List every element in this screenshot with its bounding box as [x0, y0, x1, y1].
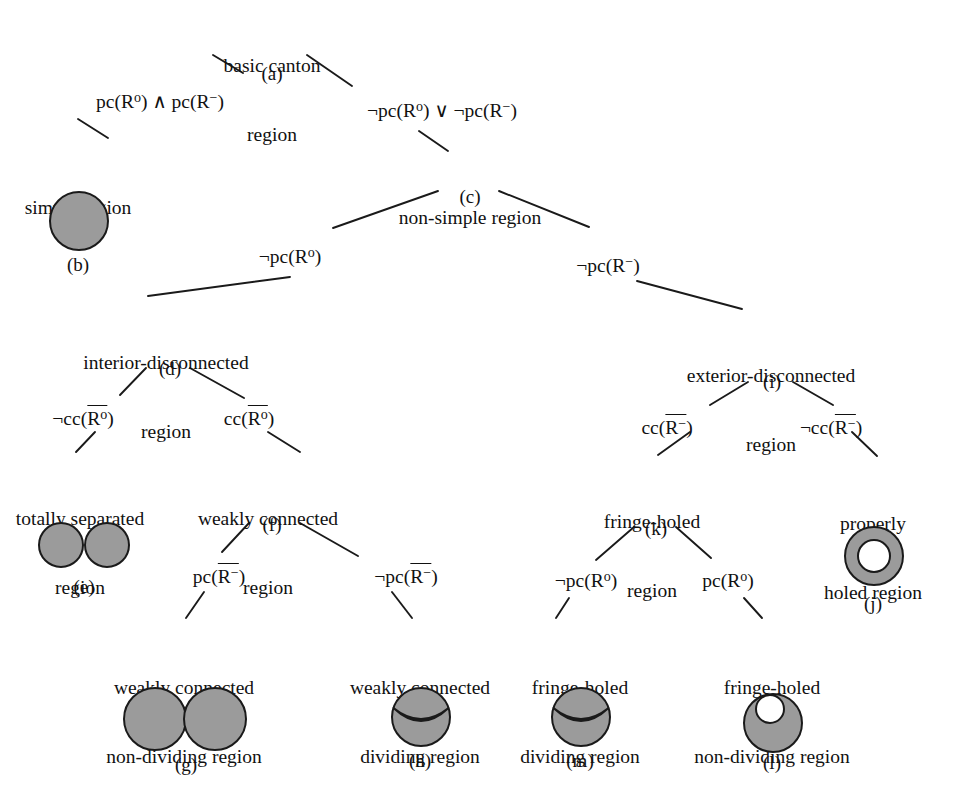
edge-c-lower	[419, 131, 448, 151]
node-f-weakly-connected-region: weakly connected region	[198, 461, 338, 645]
edge-b-lower	[78, 119, 108, 138]
node-g-tag: (g)	[175, 754, 197, 776]
node-h-tag: (h)	[409, 750, 431, 772]
node-i-tag: (i)	[763, 371, 781, 393]
edge-h-lower	[392, 592, 412, 618]
node-b-tag: (b)	[67, 254, 89, 276]
region-taxonomy-diagram: basic canton region (a) pc(Ro) ∧ pc(R−) …	[0, 0, 956, 795]
node-k-fringe-holed-region: fringe-holed region	[604, 464, 700, 648]
node-j-tag: (j)	[864, 593, 882, 615]
shape-j-annulus	[840, 522, 908, 590]
node-c-non-simple-region: non-simple region	[399, 160, 541, 275]
edge-i-lower	[637, 281, 742, 309]
node-a-basic-canton-region: basic canton region	[224, 8, 321, 192]
shape-h-disc-with-lens-slit	[390, 684, 452, 750]
edge-label-not-pc-Ro-1: ¬pc(Ro)	[259, 244, 321, 268]
edge-d-lower	[148, 277, 290, 296]
node-k-line2: region	[604, 579, 700, 602]
node-f-tag: (f)	[263, 514, 282, 536]
edge-label-not-pc-Rminus-1: ¬pc(R−)	[576, 253, 639, 277]
edge-label-pc-and-pc: pc(Ro) ∧ pc(R−)	[96, 89, 224, 113]
edge-label-cc-Ro-overline: cc(Ro)	[224, 404, 274, 430]
node-k-tag: (k)	[645, 518, 667, 540]
shape-e-two-separate-discs	[36, 517, 132, 573]
node-l-tag: (l)	[763, 752, 781, 774]
node-m-tag: (m)	[566, 750, 593, 772]
shape-g-two-tangent-discs	[122, 684, 248, 754]
edge-label-notpc-or-notpc: ¬pc(Ro) ∨ ¬pc(R−)	[367, 98, 517, 122]
edge-label-not-pc-Ro-2: ¬pc(Ro)	[555, 568, 617, 592]
edge-m-lower	[556, 598, 569, 618]
edge-label-cc-Rminus-overline: cc(R−)	[641, 413, 692, 439]
shape-l-disc-with-boundary-touching-hole	[740, 690, 808, 756]
node-c-tag: (c)	[459, 186, 480, 208]
edge-label-pc-Rminus-overline: pc(R−)	[193, 562, 245, 588]
edge-l-lower	[744, 598, 762, 618]
edge-label-pc-Ro: pc(Ro)	[702, 568, 753, 592]
edge-label-not-pc-Rminus-overline: ¬pc(R−)	[374, 562, 437, 588]
edge-label-not-cc-Rminus-overline: ¬cc(R−)	[800, 413, 862, 439]
edge-label-not-cc-Ro-overline: ¬cc(Ro)	[52, 404, 113, 430]
node-a-tag: (a)	[261, 63, 282, 85]
node-e-tag: (e)	[73, 576, 94, 598]
node-d-tag: (d)	[159, 358, 181, 380]
edge-f-lower	[268, 432, 300, 452]
shape-m-disc-with-lens-slit	[550, 684, 612, 750]
node-a-line2: region	[224, 123, 321, 146]
node-c-line1: non-simple region	[399, 206, 541, 229]
shape-b-single-disc	[44, 186, 114, 256]
